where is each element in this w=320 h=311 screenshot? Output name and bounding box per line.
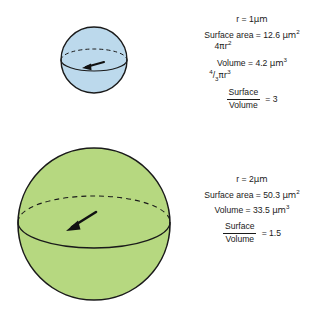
large-radius-unit: μm (254, 174, 268, 184)
large-ratio-line: Surface Volume = 1.5 (186, 221, 318, 245)
large-ratio-fraction: Surface Volume (223, 222, 257, 245)
small-surface-formula-pi: πr (219, 41, 228, 51)
large-ratio-value: = 1.5 (262, 228, 281, 239)
small-sphere-text-panel: r = 1μm Surface area = 12.6 μm2 4πr2 Vol… (186, 14, 318, 115)
large-surface-exp: 2 (296, 188, 299, 195)
small-surface-unit: μm (282, 30, 296, 40)
large-ratio-numerator: Surface (223, 222, 257, 233)
small-surface-line: Surface area = 12.6 μm2 (186, 30, 318, 41)
large-radius-line: r = 2μm (186, 174, 318, 185)
small-surface-formula: 4πr2 (186, 41, 318, 52)
small-radius-eq: = 1 (239, 14, 254, 24)
large-sphere-text-panel: r = 2μm Surface area = 50.3 μm2 Volume =… (186, 174, 318, 250)
large-volume-unit: μm (272, 205, 286, 215)
large-ratio-denominator: Volume (223, 233, 256, 245)
small-volume-formula-fraction: 4/3 (209, 70, 218, 80)
large-radius-eq: = 2 (239, 174, 254, 184)
small-ratio-numerator: Surface (227, 88, 261, 99)
small-surface-exp: 2 (296, 28, 299, 35)
small-surface-label: Surface area = 12.6 (204, 30, 282, 40)
small-volume-formula-exp: 3 (227, 68, 230, 75)
large-surface-label: Surface area = 50.3 (204, 190, 282, 200)
small-volume-formula-num: 4 (209, 68, 212, 75)
large-volume-exp: 3 (286, 204, 289, 211)
small-volume-formula-pi: πr (219, 70, 228, 80)
small-ratio-value: = 3 (265, 94, 277, 105)
small-volume-unit: μm (270, 58, 284, 68)
large-volume-line: Volume = 33.5 μm3 (186, 205, 318, 216)
small-ratio-block: Surface Volume = 3 (227, 88, 278, 111)
small-ratio-denominator: Volume (227, 99, 260, 111)
small-ratio-fraction: Surface Volume (227, 88, 261, 111)
small-surface-formula-exp: 2 (228, 40, 231, 47)
small-volume-exp: 3 (284, 56, 287, 63)
large-surface-unit: μm (282, 190, 296, 200)
small-volume-line: Volume = 4.2 μm3 (186, 58, 318, 69)
large-sphere-body (18, 148, 170, 300)
small-volume-formula: 4/3πr3 (186, 70, 318, 81)
large-ratio-block: Surface Volume = 1.5 (223, 222, 281, 245)
small-sphere-body (61, 27, 127, 93)
small-radius-unit: μm (254, 14, 268, 24)
small-radius-line: r = 1μm (186, 14, 318, 25)
large-surface-line: Surface area = 50.3 μm2 (186, 190, 318, 201)
figure-root: r = 1μm Surface area = 12.6 μm2 4πr2 Vol… (0, 0, 320, 311)
small-volume-label: Volume = 4.2 (217, 58, 270, 68)
large-volume-label: Volume = 33.5 (215, 205, 273, 215)
small-ratio-line: Surface Volume = 3 (186, 87, 318, 111)
